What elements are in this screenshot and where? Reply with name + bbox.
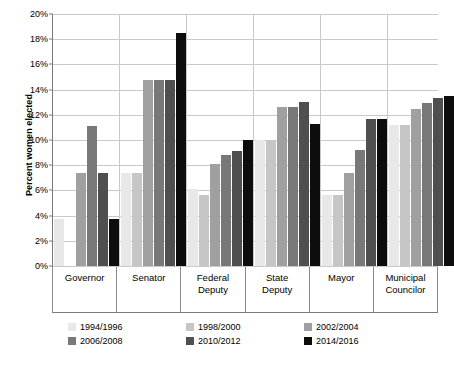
bar bbox=[54, 219, 64, 266]
bar-group bbox=[320, 14, 387, 266]
bar-group bbox=[119, 14, 186, 266]
bar bbox=[377, 119, 387, 266]
bar bbox=[389, 125, 399, 266]
bar bbox=[322, 195, 332, 266]
category-label: MunicipalCouncilor bbox=[373, 267, 438, 312]
category-label: StateDeputy bbox=[245, 267, 309, 312]
bar bbox=[221, 155, 231, 266]
legend-swatch-icon bbox=[68, 337, 76, 345]
y-tick-label: 12% bbox=[0, 110, 48, 120]
bar-group bbox=[186, 14, 253, 266]
y-tick-label: 14% bbox=[0, 85, 48, 95]
bar bbox=[143, 80, 153, 266]
category-axis: GovernorSenatorFederalDeputyStateDeputyM… bbox=[52, 267, 438, 313]
bar bbox=[232, 151, 242, 266]
bar bbox=[344, 173, 354, 266]
y-tick-label: 18% bbox=[0, 34, 48, 44]
legend-label: 2010/2012 bbox=[198, 336, 241, 346]
bar-group bbox=[53, 14, 119, 266]
legend-item[interactable]: 2014/2016 bbox=[304, 336, 422, 346]
bar bbox=[243, 140, 253, 266]
bar bbox=[444, 96, 454, 266]
legend-label: 2006/2008 bbox=[80, 336, 123, 346]
bar-groups bbox=[53, 14, 438, 266]
legend-label: 2002/2004 bbox=[316, 322, 359, 332]
bar bbox=[411, 109, 421, 267]
y-tick-label: 6% bbox=[0, 185, 48, 195]
bar bbox=[188, 189, 198, 266]
chart-legend: 1994/19961998/20002002/20042006/20082010… bbox=[52, 322, 438, 346]
y-tick-label: 10% bbox=[0, 135, 48, 145]
bar bbox=[132, 173, 142, 266]
y-tick-label: 16% bbox=[0, 59, 48, 69]
bar bbox=[165, 80, 175, 266]
y-tick-label: 8% bbox=[0, 160, 48, 170]
y-tick-label: 2% bbox=[0, 236, 48, 246]
bar bbox=[76, 173, 86, 266]
bar bbox=[87, 126, 97, 266]
bar bbox=[176, 33, 186, 266]
category-label: Governor bbox=[52, 267, 116, 312]
bar bbox=[400, 125, 410, 266]
category-label: Senator bbox=[116, 267, 180, 312]
bar bbox=[255, 140, 265, 266]
bar bbox=[366, 119, 376, 266]
legend-item[interactable]: 1998/2000 bbox=[186, 322, 304, 332]
bar bbox=[109, 219, 119, 266]
legend-item[interactable]: 2006/2008 bbox=[68, 336, 186, 346]
bar bbox=[433, 98, 443, 266]
bar bbox=[422, 103, 432, 266]
legend-label: 1994/1996 bbox=[80, 322, 123, 332]
legend-label: 1998/2000 bbox=[198, 322, 241, 332]
y-tick-label: 0% bbox=[0, 261, 48, 271]
bar bbox=[277, 107, 287, 266]
bar-group bbox=[387, 14, 454, 266]
legend-swatch-icon bbox=[304, 323, 312, 331]
bar bbox=[288, 107, 298, 266]
bar bbox=[121, 173, 131, 266]
bar bbox=[154, 80, 164, 266]
legend-swatch-icon bbox=[68, 323, 76, 331]
y-tick-label: 20% bbox=[0, 9, 48, 19]
bar bbox=[310, 124, 320, 266]
bar bbox=[199, 195, 209, 266]
legend-item[interactable]: 1994/1996 bbox=[68, 322, 186, 332]
legend-swatch-icon bbox=[304, 337, 312, 345]
legend-swatch-icon bbox=[186, 323, 194, 331]
bar bbox=[299, 102, 309, 266]
bar bbox=[266, 140, 276, 266]
category-label: Mayor bbox=[309, 267, 373, 312]
bar bbox=[210, 164, 220, 266]
bar bbox=[355, 150, 365, 266]
plot-area: 0%2%4%6%8%10%12%14%16%18%20% bbox=[52, 14, 438, 267]
category-label: FederalDeputy bbox=[180, 267, 244, 312]
legend-label: 2014/2016 bbox=[316, 336, 359, 346]
bar-group bbox=[253, 14, 320, 266]
bar bbox=[98, 173, 108, 266]
bar bbox=[333, 195, 343, 266]
legend-swatch-icon bbox=[186, 337, 194, 345]
legend-item[interactable]: 2002/2004 bbox=[304, 322, 422, 332]
y-tick-label: 4% bbox=[0, 211, 48, 221]
legend-item[interactable]: 2010/2012 bbox=[186, 336, 304, 346]
